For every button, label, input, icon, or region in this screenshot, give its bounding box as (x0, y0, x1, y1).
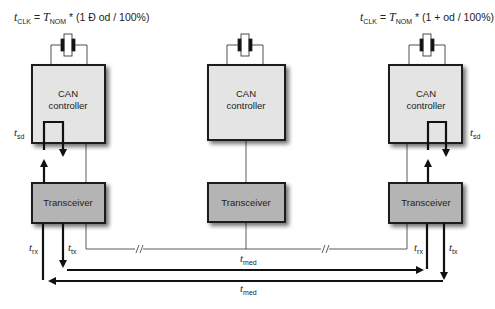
svg-text:controller: controller (226, 100, 265, 111)
formula-right: tCLK = TNOM * (1 + od / 100%) (360, 10, 494, 25)
svg-text:CAN: CAN (416, 88, 436, 99)
label-tmed-return: tmed (240, 282, 257, 296)
svg-text:Transceiver: Transceiver (401, 197, 450, 208)
formula-left: tCLK = TNOM * (1 Ð od / 100%) (14, 10, 149, 25)
svg-text:Transceiver: Transceiver (221, 197, 270, 208)
svg-text:CAN: CAN (236, 88, 256, 99)
transceiver-middle: Transceiver (208, 183, 285, 222)
label-ttx-right: ttx (449, 241, 458, 255)
can-controller-middle: CAN controller (208, 65, 285, 140)
can-controller-right: CAN controller (389, 65, 462, 143)
transceiver-right: Transceiver (389, 183, 462, 223)
label-trx-right: trx (414, 241, 423, 255)
svg-text:controller: controller (48, 100, 87, 111)
transceiver-left: Transceiver (32, 183, 105, 223)
can-timing-diagram: tCLK = TNOM * (1 Ð od / 100%) tCLK = TNO… (0, 0, 495, 309)
crystal-icon-left (51, 34, 87, 65)
svg-text:CAN: CAN (58, 88, 78, 99)
label-tsd-left: tsd (14, 126, 25, 140)
label-tsd-right: tsd (470, 126, 481, 140)
svg-text:Transceiver: Transceiver (43, 197, 92, 208)
label-trx-left: trx (29, 241, 38, 255)
crystal-icon-right (409, 34, 445, 65)
crystal-icon-middle (227, 34, 263, 65)
svg-text:controller: controller (406, 100, 445, 111)
label-tmed-forward: tmed (240, 252, 257, 266)
label-ttx-left: ttx (68, 241, 77, 255)
